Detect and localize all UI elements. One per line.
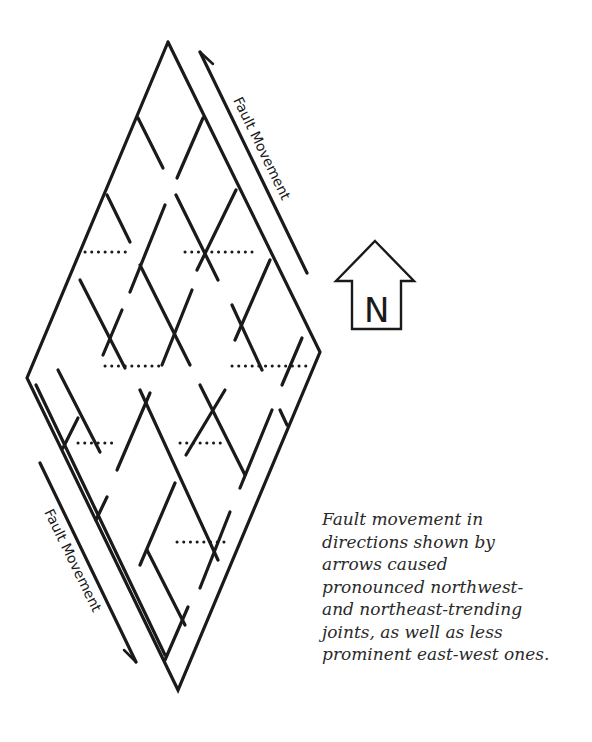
caption-line: and northeast-trending	[322, 598, 592, 621]
caption-line: pronounced northwest-	[322, 576, 592, 599]
east-west-joints	[78, 252, 306, 542]
caption-line: prominent east-west ones.	[322, 643, 592, 666]
caption-line: joints, as well as less	[322, 621, 592, 644]
caption-line: directions shown by	[322, 531, 592, 554]
caption-line: Fault movement in	[322, 508, 592, 531]
caption-line: arrows caused	[322, 553, 592, 576]
diamond-outline	[27, 42, 320, 690]
fault-arrow-top-shaft	[200, 52, 307, 273]
figure-caption: Fault movement in directions shown by ar…	[322, 508, 592, 666]
north-arrow-icon: N	[336, 241, 414, 330]
north-label: N	[364, 290, 389, 330]
